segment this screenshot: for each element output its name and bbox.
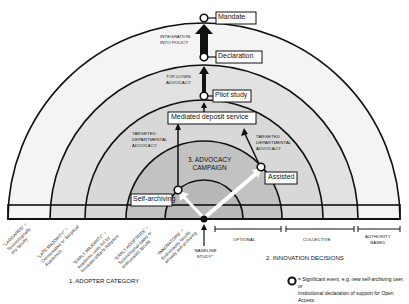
node-self-archiving: Self-archiving <box>133 195 175 202</box>
label-targeted-left: TARGETED DEPARTMENTAL ADVOCACY <box>132 131 167 149</box>
node-assisted: Assisted <box>268 173 294 180</box>
node-pilot-study: Pilot study <box>215 91 247 98</box>
node-mandate: Mandate <box>218 13 245 20</box>
node-mediated-deposit: Mediated deposit service <box>171 113 248 120</box>
title-adopter-category: 1. ADOPTER CATEGORY <box>69 278 139 284</box>
node-declaration: Declaration <box>218 52 253 59</box>
adopter-laggards: "LAGGARDS" = Technologically shy faculty <box>2 221 36 255</box>
decision-collective: COLLECTIVE <box>303 237 331 242</box>
label-integration: INTEGRATION INTO POLICY <box>160 34 190 46</box>
legend-text: = Significant event, e.g. new self-archi… <box>298 276 409 304</box>
label-topdown: TOP-DOWN ADVOCACY <box>166 74 191 86</box>
label-baseline-study: "BASELINE STUDY" <box>190 248 220 260</box>
decision-optional: OPTIONAL <box>233 237 256 242</box>
decision-authority-based: AUTHORITY BASED <box>365 234 391 246</box>
label-targeted-right: TARGETED DEPARTMENTAL ADVOCACY <box>256 134 291 152</box>
adopter-early-adopters: "EARLY ADOPTERS" = Technological savvy o… <box>113 225 158 270</box>
label-advocacy-campaign: 3. ADVOCACY CAMPAIGN <box>188 156 231 172</box>
title-innovation-decisions: 2. INNOVATION DECISIONS <box>266 255 344 261</box>
